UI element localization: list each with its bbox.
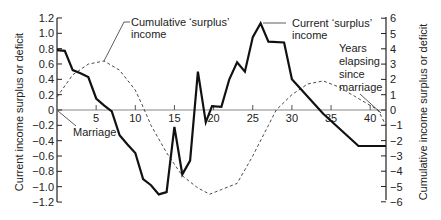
right-axis-title: Cumulative income surplus or deficit bbox=[417, 24, 429, 201]
right-tick-label: −6 bbox=[390, 196, 403, 208]
left-tick-label: −0.8 bbox=[32, 165, 54, 177]
left-tick-label: 0 bbox=[48, 104, 54, 116]
right-tick-label: 6 bbox=[390, 12, 396, 24]
x-tick-label: 30 bbox=[286, 112, 298, 124]
x-tick-label: 15 bbox=[168, 112, 180, 124]
annot-current-2: income bbox=[292, 29, 327, 41]
annot-years-4: marriage bbox=[339, 81, 382, 93]
right-tick-label: −1 bbox=[390, 119, 403, 131]
x-tick-label: 5 bbox=[93, 112, 99, 124]
left-tick-label: −0.4 bbox=[32, 135, 54, 147]
annot-years-1: Years bbox=[339, 42, 367, 54]
right-tick-label: −3 bbox=[390, 150, 403, 162]
right-tick-label: −2 bbox=[390, 135, 403, 147]
left-tick-label: 0.6 bbox=[39, 58, 54, 70]
right-tick-label: 5 bbox=[390, 28, 396, 40]
right-tick-label: 0 bbox=[390, 104, 396, 116]
right-tick-label: 4 bbox=[390, 43, 396, 55]
left-axis-title: Current income surplus or deficit bbox=[13, 33, 25, 191]
left-tick-label: 1.2 bbox=[39, 12, 54, 24]
right-tick-label: −5 bbox=[390, 181, 403, 193]
income-chart: 1.21.00.80.60.40.20−0.2−0.4−0.6−0.8−1.0−… bbox=[0, 0, 441, 220]
current-surplus-line bbox=[57, 23, 386, 194]
left-tick-label: −0.6 bbox=[32, 150, 54, 162]
x-tick-label: 10 bbox=[129, 112, 141, 124]
left-tick-label: −1.0 bbox=[32, 181, 54, 193]
annot-cumulative-2: income bbox=[131, 28, 166, 40]
left-tick-label: 1.0 bbox=[39, 27, 54, 39]
left-tick-label: 0.4 bbox=[39, 73, 54, 85]
annot-marriage: Marriage bbox=[73, 126, 116, 138]
annot-current-1: Current ‘surplus’ bbox=[292, 17, 372, 29]
right-tick-label: 1 bbox=[390, 89, 396, 101]
annot-cumulative-1: Cumulative ‘surplus’ bbox=[131, 16, 229, 28]
left-tick-label: 0.8 bbox=[39, 43, 54, 55]
right-tick-label: 3 bbox=[390, 58, 396, 70]
annot-cum-leader bbox=[104, 22, 124, 61]
left-tick-label: 0.2 bbox=[39, 89, 54, 101]
x-tick-label: 25 bbox=[247, 112, 259, 124]
right-tick-label: 2 bbox=[390, 73, 396, 85]
annot-marriage-leader bbox=[58, 111, 76, 126]
left-tick-label: −0.2 bbox=[32, 119, 54, 131]
right-tick-label: −4 bbox=[390, 165, 403, 177]
x-tick-label: 40 bbox=[364, 112, 376, 124]
right-y-ticks: 6543210−1−2−3−4−5−6 bbox=[381, 12, 403, 208]
left-tick-label: −1.2 bbox=[32, 196, 54, 208]
annot-years-2: elapsing bbox=[339, 55, 380, 67]
annot-years-3: since bbox=[339, 68, 365, 80]
x-ticks: 510152025303540 bbox=[93, 105, 376, 124]
